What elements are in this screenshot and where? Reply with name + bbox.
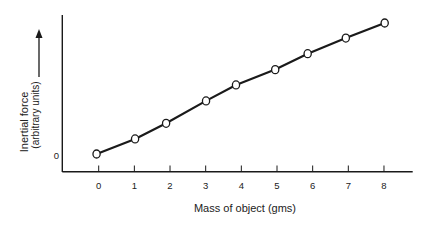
x-tick-label: 5 <box>274 180 279 191</box>
x-ticks <box>99 166 384 172</box>
line-chart: 012345678 0 Mass of object (gms) Inertia… <box>0 0 435 225</box>
up-arrow-icon <box>36 29 43 77</box>
x-tick-label: 1 <box>132 180 137 191</box>
x-tick-label: 8 <box>381 180 386 191</box>
x-axis-title: Mass of object (gms) <box>194 202 296 214</box>
data-point-marker <box>202 97 209 105</box>
data-point-marker <box>342 34 349 42</box>
x-tick-labels: 012345678 <box>96 180 387 191</box>
data-point-marker <box>232 81 239 89</box>
data-point-marker <box>381 19 388 27</box>
x-tick-label: 3 <box>203 180 208 191</box>
data-line <box>97 23 385 154</box>
data-point-marker <box>272 66 279 74</box>
data-markers <box>93 19 388 158</box>
data-point-marker <box>304 50 311 58</box>
y-axis-subtitle: (arbitrary units) <box>30 81 41 148</box>
x-tick-label: 2 <box>167 180 172 191</box>
data-point-marker <box>162 119 169 127</box>
data-point-marker <box>131 135 138 143</box>
x-tick-label: 0 <box>96 180 101 191</box>
y-axis-title: Inertial force <box>18 92 30 153</box>
data-point-marker <box>93 150 100 158</box>
x-tick-label: 4 <box>239 180 244 191</box>
x-tick-label: 6 <box>310 180 315 191</box>
x-tick-label: 7 <box>346 180 351 191</box>
y-axis-title-group: Inertial force (arbitrary units) <box>18 29 43 152</box>
y-tick-label-zero: 0 <box>54 150 59 161</box>
